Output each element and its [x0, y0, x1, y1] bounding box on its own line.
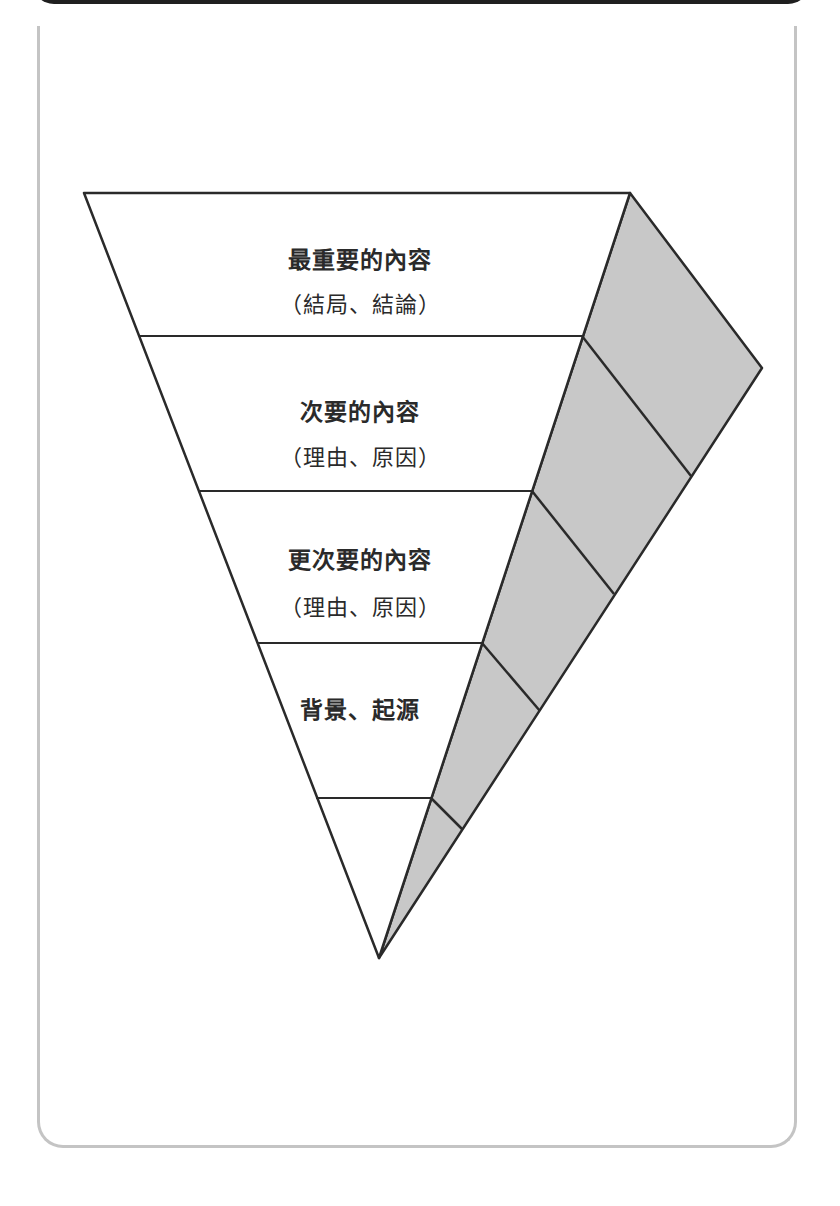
layer-3-subtitle: （理由、原因） — [280, 589, 441, 621]
layer-1-subtitle: （結局、結論） — [280, 286, 441, 318]
layer-4-title: 背景、起源 — [300, 691, 420, 725]
layer-2-subtitle: （理由、原因） — [280, 439, 441, 471]
layer-1-title: 最重要的內容 — [288, 241, 432, 275]
layer-3-title: 更次要的內容 — [288, 541, 432, 575]
layer-2-title: 次要的內容 — [300, 393, 420, 427]
